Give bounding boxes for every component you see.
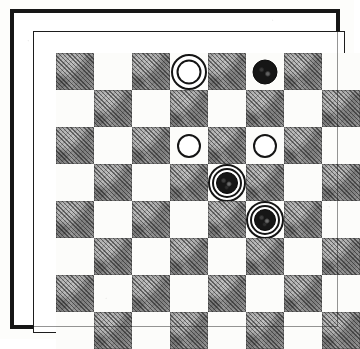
board-square-r1-c6[interactable]	[246, 53, 284, 90]
board-square-r3-c1[interactable]	[56, 127, 94, 164]
board-square-r5-c3[interactable]	[132, 201, 170, 238]
board-square-r7-c2[interactable]	[94, 275, 132, 312]
board-square-r3-c5[interactable]	[208, 127, 246, 164]
board-square-r7-c1[interactable]	[56, 275, 94, 312]
black-king-r4-c5[interactable]	[208, 164, 246, 202]
board-square-r5-c7[interactable]	[284, 201, 322, 238]
board-square-r1-c5[interactable]	[208, 53, 246, 90]
board-square-r6-c6[interactable]	[246, 238, 284, 275]
board-square-r3-c3[interactable]	[132, 127, 170, 164]
board-square-r1-c2[interactable]	[94, 53, 132, 90]
board-square-r3-c7[interactable]	[284, 127, 322, 164]
checkers-board[interactable]	[56, 53, 360, 349]
board-square-r8-c6[interactable]	[246, 312, 284, 349]
board-square-r6-c4[interactable]	[170, 238, 208, 275]
board-square-r6-c1[interactable]	[56, 238, 94, 275]
white-man-r3-c4[interactable]	[177, 134, 201, 158]
board-square-r5-c5[interactable]	[208, 201, 246, 238]
board-square-r4-c6[interactable]	[246, 164, 284, 201]
board-square-r8-c4[interactable]	[170, 312, 208, 349]
black-king-r5-c6[interactable]	[246, 201, 284, 239]
board-square-r1-c3[interactable]	[132, 53, 170, 90]
board-square-r5-c4[interactable]	[170, 201, 208, 238]
board-square-r8-c1[interactable]	[56, 312, 94, 349]
board-square-r4-c7[interactable]	[284, 164, 322, 201]
board-square-r7-c4[interactable]	[170, 275, 208, 312]
diagram-outer-border	[10, 9, 340, 329]
white-king-r1-c4[interactable]	[171, 54, 207, 90]
board-square-r6-c8[interactable]	[322, 238, 360, 275]
board-square-r3-c2[interactable]	[94, 127, 132, 164]
board-square-r5-c2[interactable]	[94, 201, 132, 238]
board-square-r2-c2[interactable]	[94, 90, 132, 127]
board-square-r3-c4[interactable]	[170, 127, 208, 164]
board-square-r1-c8[interactable]	[322, 53, 360, 90]
board-square-r7-c6[interactable]	[246, 275, 284, 312]
board-square-r2-c7[interactable]	[284, 90, 322, 127]
board-square-r2-c6[interactable]	[246, 90, 284, 127]
board-square-r3-c6[interactable]	[246, 127, 284, 164]
board-square-r2-c4[interactable]	[170, 90, 208, 127]
board-square-r4-c5[interactable]	[208, 164, 246, 201]
board-square-r1-c4[interactable]	[170, 53, 208, 90]
board-square-r8-c2[interactable]	[94, 312, 132, 349]
diagram-inner-rule	[33, 31, 345, 333]
black-man-r1-c6[interactable]	[253, 59, 278, 84]
board-square-r5-c1[interactable]	[56, 201, 94, 238]
board-square-r5-c6[interactable]	[246, 201, 284, 238]
board-square-r1-c1[interactable]	[56, 53, 94, 90]
board-square-r6-c2[interactable]	[94, 238, 132, 275]
board-square-r2-c8[interactable]	[322, 90, 360, 127]
board-square-r2-c5[interactable]	[208, 90, 246, 127]
board-square-r4-c2[interactable]	[94, 164, 132, 201]
board-square-r8-c8[interactable]	[322, 312, 360, 349]
board-square-r4-c8[interactable]	[322, 164, 360, 201]
board-square-r3-c8[interactable]	[322, 127, 360, 164]
board-square-r8-c7[interactable]	[284, 312, 322, 349]
board-square-r2-c3[interactable]	[132, 90, 170, 127]
board-square-r8-c3[interactable]	[132, 312, 170, 349]
board-square-r1-c7[interactable]	[284, 53, 322, 90]
board-square-r5-c8[interactable]	[322, 201, 360, 238]
board-square-r4-c3[interactable]	[132, 164, 170, 201]
board-square-r4-c4[interactable]	[170, 164, 208, 201]
board-square-r8-c5[interactable]	[208, 312, 246, 349]
board-square-r6-c5[interactable]	[208, 238, 246, 275]
board-square-r2-c1[interactable]	[56, 90, 94, 127]
white-man-r3-c6[interactable]	[253, 134, 277, 158]
board-square-r7-c3[interactable]	[132, 275, 170, 312]
board-square-r6-c3[interactable]	[132, 238, 170, 275]
board-square-r7-c5[interactable]	[208, 275, 246, 312]
board-square-r7-c7[interactable]	[284, 275, 322, 312]
board-square-r7-c8[interactable]	[322, 275, 360, 312]
board-square-r6-c7[interactable]	[284, 238, 322, 275]
board-square-r4-c1[interactable]	[56, 164, 94, 201]
